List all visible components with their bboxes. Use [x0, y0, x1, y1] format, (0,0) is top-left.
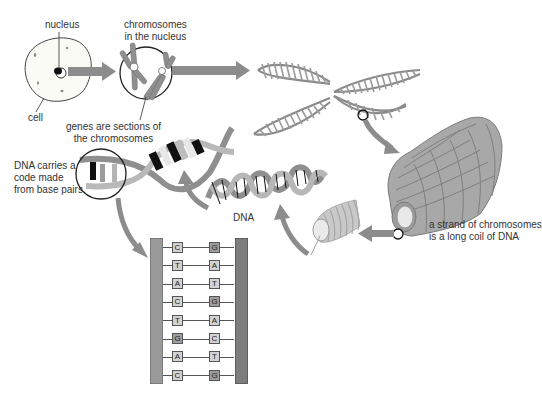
base-right: T [209, 351, 220, 362]
label-dna-code-line3: from base pairs [14, 184, 83, 196]
label-strand-line2: is a long coil of DNA [429, 231, 542, 243]
label-dna-code: DNA carries a code made from base pairs [14, 160, 83, 196]
base-left: A [172, 278, 183, 289]
ladder-left-backbone [150, 238, 163, 384]
dna-helix-icon [208, 167, 326, 204]
arrow-detail-to-ladder [118, 198, 140, 250]
ladder-right-backbone [235, 238, 248, 384]
label-chromosomes-line2: in the nucleus [124, 31, 187, 43]
base-left: A [172, 351, 183, 362]
selection-circle-coil [393, 229, 403, 239]
label-chromosomes-in-nucleus: chromosomes in the nucleus [124, 19, 187, 43]
arrow-small-coil-to-dna [282, 216, 308, 254]
label-dna-code-line1: DNA carries a [14, 160, 83, 172]
base-pair-ladder: CGTAATCGTAGCATCG [148, 238, 248, 384]
nucleus-chromosomes-icon [119, 43, 176, 120]
base-left: C [172, 242, 183, 253]
base-right: G [209, 296, 220, 307]
label-genes: genes are sections of the chromosomes [66, 121, 161, 145]
small-coil-icon [311, 200, 360, 255]
x-chromosome-coil-icon [254, 62, 420, 136]
label-strand: a strand of chromosomes is a long coil o… [429, 219, 542, 243]
base-right: G [209, 242, 220, 253]
label-chromosomes-line1: chromosomes [124, 19, 187, 31]
arrow-nucleus-to-chromosome [172, 61, 250, 80]
base-right: A [209, 315, 220, 326]
label-strand-line1: a strand of chromosomes [429, 219, 542, 231]
base-right: A [209, 260, 220, 271]
base-left: G [172, 333, 183, 344]
base-left: T [172, 260, 183, 271]
label-cell: cell [28, 112, 43, 124]
label-dna: DNA [233, 212, 254, 224]
base-right: C [209, 333, 220, 344]
arrow-coil-to-small-coil [358, 225, 394, 242]
base-left: C [172, 370, 183, 381]
base-left: T [172, 315, 183, 326]
base-right: T [209, 278, 220, 289]
base-left: C [172, 296, 183, 307]
base-right: G [209, 370, 220, 381]
label-genes-line1: genes are sections of [66, 121, 161, 133]
label-dna-code-line2: code made [14, 172, 83, 184]
label-nucleus: nucleus [45, 19, 79, 31]
label-genes-line2: the chromosomes [66, 133, 161, 145]
